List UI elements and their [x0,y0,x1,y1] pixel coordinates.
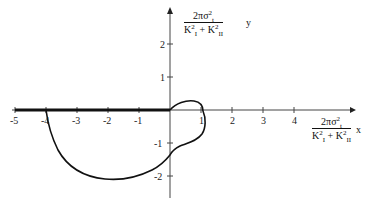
svg-text:-2: -2 [103,115,111,126]
y-axis-label: 2πσ2t K2I + K2II [184,10,223,35]
x-axis-variable: x [356,124,361,135]
y-axis-label-denominator: K2I + K2II [184,23,223,35]
y-axis-label-numerator: 2πσ2t [184,10,223,23]
svg-text:4: 4 [292,115,297,126]
x-axis-label: 2πσ2t K2I + K2II [312,116,351,141]
loop-curve [46,101,205,180]
x-tick-labels: -5 -4 -3 -2 -1 1 2 3 4 [10,115,297,126]
plot-canvas: -5 -4 -3 -2 -1 1 2 3 4 2 1 -1 -2 [0,0,366,204]
svg-text:3: 3 [261,115,266,126]
svg-text:1: 1 [160,72,165,83]
svg-text:-5: -5 [10,115,18,126]
y-axis-arrow-icon [167,7,173,14]
x-axis-label-numerator: 2πσ2t [312,116,351,129]
svg-text:-1: -1 [134,115,142,126]
svg-text:2: 2 [230,115,235,126]
y-axis-variable: y [246,17,251,28]
svg-text:2: 2 [160,39,165,50]
svg-text:-2: -2 [154,171,162,182]
x-axis-label-denominator: K2I + K2II [312,129,351,141]
svg-text:-3: -3 [72,115,80,126]
x-axis-arrow-icon [350,107,356,113]
svg-text:-1: -1 [154,138,162,149]
svg-text:1: 1 [199,115,204,126]
